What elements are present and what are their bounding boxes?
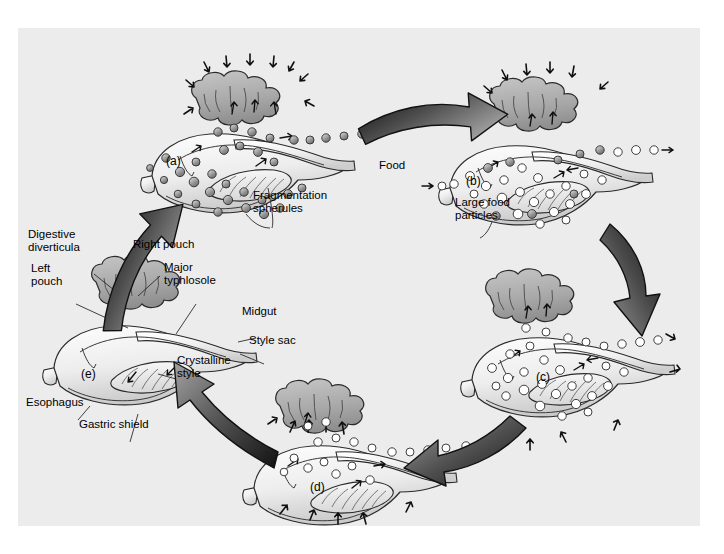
cycle-arrow-c-to-d [404, 416, 526, 486]
stage-b-exit-arrow [662, 147, 673, 152]
stage-b-exit-particle [650, 146, 658, 154]
cycle-arrow-b-to-c [600, 224, 660, 336]
digestive-cycle-diagram [18, 28, 700, 526]
stage-letter-a: (a) [166, 154, 181, 168]
label-major-typhlosole: Major typhlosole [164, 261, 216, 287]
figure-panel: (a) (b) (c) (d) (e) Digestive diverticul… [18, 28, 700, 526]
label-crystalline-style: Crystalline style [177, 354, 231, 380]
label-large-food-particles: Large food particles [455, 196, 510, 222]
label-gastric-shield: Gastric shield [79, 418, 149, 431]
label-midgut: Midgut [242, 305, 277, 318]
stage-b-food-particle-1 [438, 182, 446, 190]
stage-letter-c: (c) [536, 370, 550, 384]
label-esophagus: Esophagus [26, 396, 84, 409]
label-left-pouch: Left pouch [31, 262, 62, 288]
stage-b-food-particle-2 [450, 180, 458, 188]
label-style-sac: Style sac [249, 334, 296, 347]
stage-d-group [243, 379, 484, 525]
label-fragmentation-spherules: Fragmentation spherules [253, 189, 327, 215]
label-food: Food [379, 159, 405, 172]
label-digestive-diverticula: Digestive diverticula [28, 228, 80, 254]
leader-large-food [480, 222, 492, 238]
label-right-pouch: Right pouch [133, 238, 194, 251]
stage-letter-e: (e) [81, 367, 96, 381]
food-inlet-arrow [422, 183, 433, 188]
stage-e-group [43, 255, 264, 442]
stage-letter-d: (d) [310, 480, 325, 494]
stage-letter-b: (b) [466, 174, 481, 188]
cycle-arrow-a-to-b [356, 90, 509, 148]
